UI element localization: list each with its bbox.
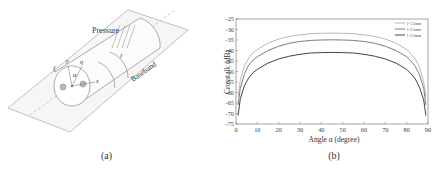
series-line-2 [238,40,426,105]
y-tick-label: -65 [226,99,234,106]
x-tick-label: 20 [276,126,282,133]
x-tick-label: 0 [234,126,237,133]
x-tick-label: 60 [361,126,367,133]
series-line-3 [238,52,426,115]
panel-a-diagram: Pressure Baseband l α η ξ y x (a) [0,0,220,169]
legend-label: l=3.5mm [407,34,421,38]
eta-label: η [80,58,83,65]
y-axis-label: Crosstalk (dB) [223,50,232,94]
x-tick-label: 30 [297,126,303,133]
chart-legend: l=1.5mml=2.5mml=3.5mm [395,22,421,38]
x-tick-label: 40 [318,126,324,133]
chart-lines [238,33,426,116]
y-tick-label: -35 [226,36,234,43]
alpha-label: α [73,71,77,78]
crosstalk-chart: -25-30-35-40-45-50-55-60-65-70-750102030… [220,0,442,169]
xi-label: ξ [53,64,56,72]
x-tick-label: 10 [254,126,260,133]
pressure-label: Pressure [92,26,120,35]
x-tick-label: 90 [425,126,431,133]
caption-a: (a) [101,150,112,162]
x-tick-label: 70 [382,126,388,133]
legend-label: l=1.5mm [407,22,421,26]
caption-b: (b) [328,150,340,162]
series-line-1 [238,33,426,97]
sensor-schematic: Pressure Baseband l α η ξ y x (a) [0,0,220,169]
fiber-core-left [60,84,66,90]
y-tick-label: -75 [226,120,234,127]
x-tick-label: 80 [404,126,410,133]
x-axis-label: Angle α (degree) [309,135,360,144]
y-tick-label: -70 [226,110,234,117]
x-label: x [95,78,99,84]
length-label: l [120,52,122,60]
panel-b-chart: -25-30-35-40-45-50-55-60-65-70-750102030… [220,0,442,169]
x-tick-label: 50 [340,126,346,133]
y-tick-label: -25 [226,15,234,22]
y-label: y [65,58,69,64]
y-tick-label: -30 [226,26,234,33]
legend-label: l=2.5mm [407,28,421,32]
